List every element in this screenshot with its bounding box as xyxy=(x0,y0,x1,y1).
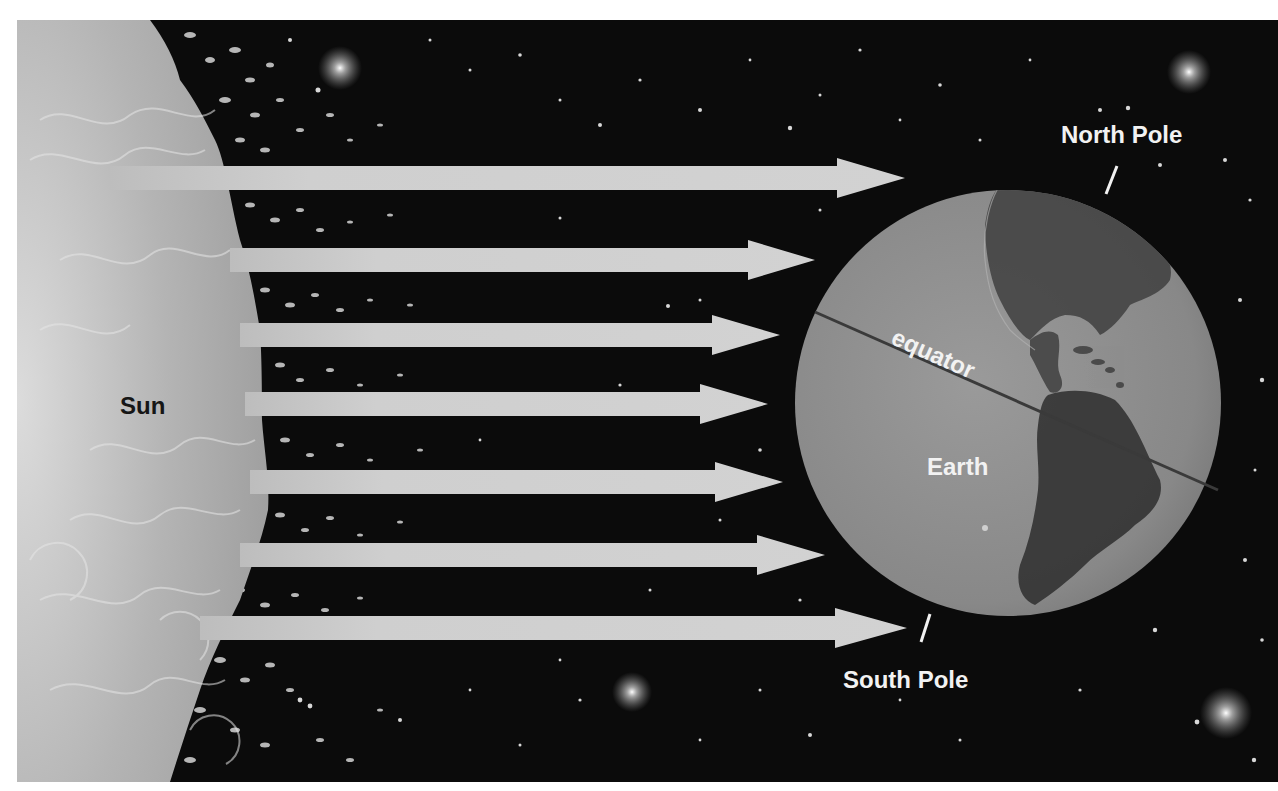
glow-star xyxy=(1200,687,1252,739)
sun-label: Sun xyxy=(120,394,165,418)
glow-star xyxy=(318,46,362,90)
earth-label: Earth xyxy=(927,455,988,479)
glow-star xyxy=(1167,50,1211,94)
north-pole-label: North Pole xyxy=(1061,123,1182,147)
south-pole-label: South Pole xyxy=(843,668,968,692)
sunlight-diagram: Sun North Pole South Pole Earth equator xyxy=(0,0,1278,791)
glow-star xyxy=(612,672,652,712)
